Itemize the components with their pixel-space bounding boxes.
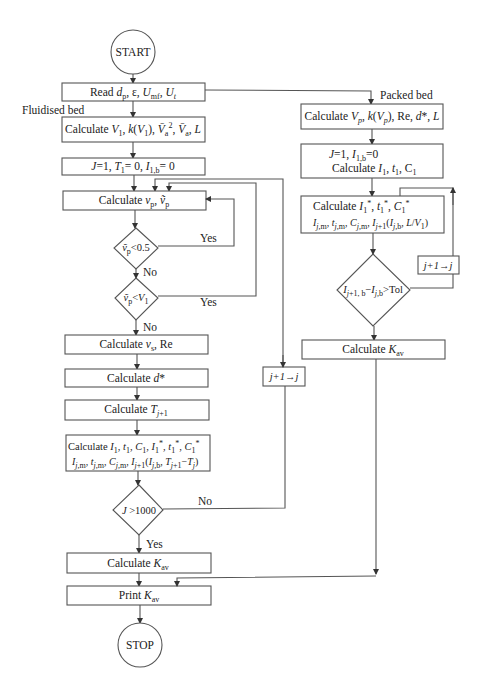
calc-vp-box: Calculate vp, ṽp xyxy=(63,191,206,210)
stop-label: STOP xyxy=(126,639,154,651)
calc-kav-packed-box: Calculate Kav xyxy=(302,340,445,359)
no-label-2: No xyxy=(143,321,157,333)
no-label-1: No xyxy=(143,266,157,278)
flowchart: START Read dp, ε, Umf, Ut Packed bed Flu… xyxy=(0,0,478,683)
decision-tol: Ij+1, b−Ij,b>Tol xyxy=(337,254,410,326)
calc-kav-fluidised-box: Calculate Kav xyxy=(67,553,211,573)
start-label: START xyxy=(116,46,151,58)
yes-label-3: Yes xyxy=(146,538,163,550)
fluidised-bed-label: Fluidised bed xyxy=(22,104,85,116)
decision-vp-lt-05: ṽp<0.5 xyxy=(114,228,158,269)
decision-j-gt-1000-label: J >1000 xyxy=(122,505,156,516)
increment-j-packed-box: j+1→j xyxy=(418,256,459,274)
init-fluidised-box: J=1, T1= 0, I1,b= 0 xyxy=(62,158,205,175)
increment-j-fluidised-box: j+1→j xyxy=(263,367,305,386)
start-terminal: START xyxy=(111,30,155,74)
read-inputs-box: Read dp, ε, Umf, Ut xyxy=(62,83,205,101)
yes-label-2: Yes xyxy=(200,296,217,308)
yes-label-1: Yes xyxy=(200,232,217,244)
increment-j-packed-label: j+1→j xyxy=(422,260,453,271)
calc-v1-box: Calculate V1, k(V1), V̄a2, V̄a, L xyxy=(62,117,205,142)
no-label-3: No xyxy=(198,495,212,507)
calc-star-packed-box: Calculate I1*, t1*, C1* Ij,m, tj,m, Cj,m… xyxy=(301,196,444,233)
calc-vs-box: Calculate vs, Re xyxy=(65,335,208,354)
stop-terminal: STOP xyxy=(118,623,162,667)
print-kav-box: Print Kav xyxy=(67,586,211,605)
decision-vp-lt-v1: ṽp<V1 xyxy=(115,278,158,320)
init-packed-box: J=1, I1,b=0 Calculate I1, t1, C1 xyxy=(301,144,443,178)
calc-tj1-box: Calculate Tj+1 xyxy=(65,400,209,420)
packed-bed-label: Packed bed xyxy=(380,89,433,101)
calc-vp-packed-box: Calculate Vp, k(Vp), Re, d*, L xyxy=(301,104,443,129)
increment-j-fluidised-label: j+1→j xyxy=(268,371,299,382)
calc-integrals-box: Calculate I1, t1, C1, I1*, t1*, C1* Ij,m… xyxy=(66,435,210,471)
calc-dstar-box: Calculate d* xyxy=(65,369,208,387)
decision-j-gt-1000: J >1000 xyxy=(113,485,163,535)
calc-dstar-label: Calculate d* xyxy=(107,372,165,384)
